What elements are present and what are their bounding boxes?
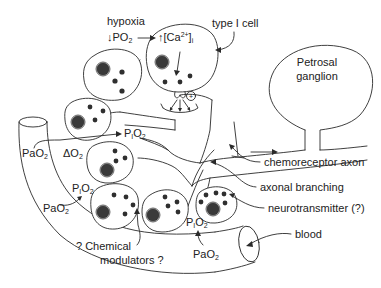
- pio2-top-label: PIO2: [124, 127, 146, 140]
- calcium-up-label: ↑[Ca2+]i: [158, 31, 194, 44]
- pao2-bottom-label: PaO2: [193, 248, 219, 261]
- petrosal-label-line1: Petrosal: [297, 56, 337, 68]
- hypoxia-label: hypoxia: [107, 15, 146, 27]
- type-i-cell: [91, 184, 139, 229]
- chemoreceptor-axon: [192, 122, 367, 186]
- petrosal-label-line2: ganglion: [296, 70, 338, 82]
- carotid-body-diagram: Petrosal ganglion: [0, 0, 381, 288]
- type-i-cell: [142, 190, 188, 232]
- chemical-modulators-label-line2: modulators ?: [100, 254, 164, 266]
- po2-down-label: ↓PO2: [107, 31, 132, 44]
- pao2-vessel-label: PaO2: [22, 147, 48, 160]
- neurotransmitter-label: neurotransmitter (?): [268, 202, 365, 214]
- chemoreceptor-axon-label: chemoreceptor axon: [264, 156, 364, 168]
- chemical-modulators-label-line1: ? Chemical: [76, 240, 131, 252]
- type-i-cell-label: type I cell: [212, 17, 258, 29]
- pao2-lower-left-label: PaO2: [43, 202, 69, 215]
- plus-sign: +: [189, 93, 193, 100]
- type-i-cell: [87, 142, 133, 183]
- petrosal-ganglion: Petrosal ganglion: [269, 45, 372, 150]
- pio2-left-label: PIO2: [72, 182, 94, 195]
- type-i-cell: [83, 49, 141, 100]
- delta-o2-label: ΔO2: [63, 147, 83, 160]
- type-i-cell: [65, 98, 111, 140]
- blood-label: blood: [295, 228, 322, 240]
- axonal-branching-label: axonal branching: [260, 181, 344, 193]
- vessel-top-opening: [19, 117, 47, 127]
